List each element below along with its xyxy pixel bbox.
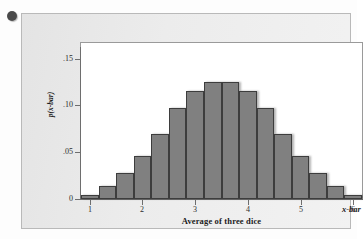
histogram-bar	[344, 195, 362, 199]
histogram-bar	[309, 173, 327, 199]
histogram-bar	[327, 186, 345, 199]
histogram-bar	[81, 195, 99, 199]
x-axis-tick-label: 3	[187, 205, 203, 214]
y-axis-tick-label: .15	[44, 55, 73, 63]
histogram-bar	[169, 108, 187, 199]
y-axis-tick-label-text: .05	[47, 148, 73, 156]
x-axis-tick-label: 5	[293, 205, 309, 214]
x-axis-tick-label: 1	[82, 205, 98, 214]
histogram-bar	[116, 173, 134, 199]
y-axis-title-text: p(x-bar)	[46, 92, 55, 117]
x-axis-variable-text: x-bar	[342, 204, 361, 214]
histogram-bar	[186, 91, 204, 199]
y-axis-tick-label-text: .15	[47, 55, 73, 63]
x-axis-variable-label: x-bar	[342, 204, 361, 214]
histogram-bars	[81, 43, 362, 199]
histogram-bar	[151, 134, 169, 199]
histogram-bar	[274, 134, 292, 199]
x-axis-title: Average of three dice	[80, 216, 363, 226]
histogram-bar	[134, 156, 152, 199]
y-axis-tick-label: 0	[44, 195, 73, 203]
histogram-bar	[222, 82, 240, 199]
figure-panel: 0.05.10.15 123456 p(x-bar) Average of th…	[21, 13, 351, 229]
histogram-bar	[99, 186, 117, 199]
y-axis-tick	[75, 199, 81, 200]
histogram-bar	[204, 82, 222, 199]
histogram-bar	[239, 91, 257, 199]
y-axis-tick-label-text: 0	[47, 195, 73, 203]
x-axis-tick-label: 2	[134, 205, 150, 214]
x-axis-line	[80, 199, 363, 200]
x-axis-tick-label: 4	[240, 205, 256, 214]
histogram-bar	[257, 108, 275, 199]
y-axis-title: p(x-bar)	[45, 78, 56, 132]
histogram-bar	[292, 156, 310, 199]
y-axis-tick-label: .05	[44, 148, 73, 156]
bullet-dot-icon	[7, 11, 17, 21]
